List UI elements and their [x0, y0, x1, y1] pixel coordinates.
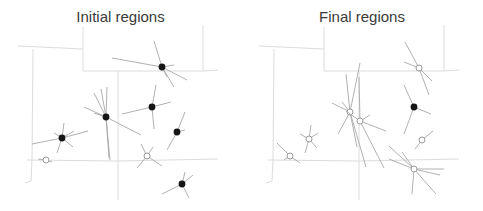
- region-center-filled: [122, 85, 171, 129]
- region-center-filled: [162, 172, 193, 198]
- filled-dot-icon: [179, 181, 186, 188]
- filled-dot-icon: [174, 129, 181, 136]
- spoke-line: [112, 58, 162, 67]
- region-center-filled: [112, 41, 187, 87]
- region-center-filled: [84, 87, 141, 160]
- spoke-line: [414, 169, 436, 194]
- spoke-line: [404, 107, 414, 134]
- hollow-dot-icon: [411, 166, 417, 172]
- hollow-dot-icon: [43, 157, 49, 163]
- hollow-dot-icon: [144, 153, 150, 159]
- spoke-line: [122, 107, 152, 114]
- filled-dot-icon: [159, 64, 166, 71]
- spoke-line: [412, 169, 414, 194]
- hollow-dot-icon: [419, 137, 425, 143]
- hollow-dot-icon: [287, 153, 293, 159]
- region-center-hollow: [404, 42, 432, 95]
- region-center-filled: [404, 85, 431, 134]
- spoke-line: [346, 74, 350, 112]
- spoke-line: [62, 131, 88, 138]
- spoke-line: [419, 68, 429, 95]
- map-outline: [18, 25, 218, 200]
- spoke-line: [106, 87, 107, 117]
- map-outline: [259, 25, 459, 200]
- initial-regions-map: [0, 0, 241, 211]
- hollow-dot-icon: [306, 136, 312, 142]
- region-center-hollow: [332, 63, 366, 167]
- filled-dot-icon: [411, 104, 418, 111]
- spoke-line: [154, 41, 162, 67]
- spoke-line: [404, 85, 414, 107]
- region-center-hollow: [137, 144, 162, 168]
- region-center-filled: [167, 112, 185, 150]
- spoke-line: [350, 112, 357, 147]
- spoke-line: [389, 146, 414, 169]
- region-markers: [32, 41, 193, 198]
- spoke-line: [338, 112, 350, 134]
- spoke-line: [32, 138, 62, 144]
- hollow-dot-icon: [357, 118, 363, 124]
- final-regions-map: [241, 0, 483, 211]
- filled-dot-icon: [59, 135, 66, 142]
- initial-regions-panel: Initial regions: [0, 0, 241, 211]
- region-center-filled: [32, 123, 88, 153]
- region-center-hollow: [300, 125, 318, 153]
- spoke-line: [106, 117, 110, 160]
- region-center-hollow: [389, 146, 444, 194]
- spoke-line: [405, 42, 419, 68]
- region-center-hollow: [415, 131, 433, 149]
- region-markers: [277, 42, 444, 194]
- hollow-dot-icon: [416, 65, 422, 71]
- filled-dot-icon: [149, 104, 156, 111]
- filled-dot-icon: [103, 114, 110, 121]
- spoke-line: [106, 117, 141, 135]
- final-regions-panel: Final regions: [241, 0, 483, 211]
